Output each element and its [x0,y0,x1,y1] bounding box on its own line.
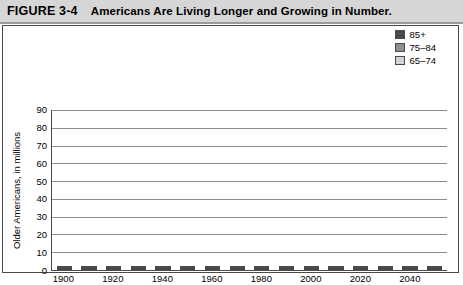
bar-slot [175,110,200,270]
x-tick-slot: 1960 [200,274,225,285]
bar-segment [402,269,417,271]
bar-slot [77,110,102,270]
bar-slot [225,110,250,270]
stacked-bar[interactable] [328,266,343,270]
stacked-bar[interactable] [378,266,393,270]
legend-swatch-icon [395,56,405,65]
stacked-bar[interactable] [81,266,96,270]
y-tick-label: 20 [36,230,47,240]
x-tick-slot [224,274,249,285]
legend-label: 85+ [410,30,426,40]
stacked-bar[interactable] [254,266,269,270]
figure-title: Americans Are Living Longer and Growing … [91,5,392,17]
x-tick-label: 1960 [201,274,222,284]
x-tick-label: 1920 [102,274,123,284]
y-tick-label: 90 [36,105,47,115]
x-tick-slot: 2020 [348,274,373,285]
x-tick-slot [125,274,150,285]
y-tick-label: 60 [36,159,47,169]
x-tick-slot: 1900 [51,274,76,285]
bar-slot [348,110,373,270]
x-tick-label: 2000 [300,274,321,284]
bar-segment [131,269,146,271]
bar-slot [422,110,447,270]
x-tick-label: 1900 [53,274,74,284]
x-tick-slot [422,274,447,285]
x-tick-slot: 2040 [398,274,423,285]
stacked-bar[interactable] [353,266,368,270]
stacked-bar[interactable] [304,266,319,270]
legend-swatch-icon [395,30,405,39]
stacked-bar[interactable] [427,266,442,270]
x-tick-slot: 2000 [299,274,324,285]
bar-segment [230,269,245,271]
bar-segment [304,269,319,271]
stacked-bar[interactable] [180,266,195,270]
figure-container: FIGURE 3-4 Americans Are Living Longer a… [0,0,463,285]
x-tick-label: 2040 [399,274,420,284]
x-tick-slot: 1980 [249,274,274,285]
bar-slot [373,110,398,270]
bar-segment [378,269,393,271]
bar-segment [81,269,96,271]
bar-segment [180,269,195,271]
y-tick-label: 30 [36,213,47,223]
bar-slot [101,110,126,270]
x-tick-slot [323,274,348,285]
bar-slot [299,110,324,270]
y-tick-label: 50 [36,177,47,187]
legend-item-65-74: 65–74 [395,56,436,66]
x-tick-slot: 1940 [150,274,175,285]
figure-header: FIGURE 3-4 Americans Are Living Longer a… [0,0,463,22]
bar-group [52,110,447,270]
y-axis-title-text: Older Americans, in millions [12,132,23,249]
y-tick-label: 40 [36,195,47,205]
y-tick-label: 0 [42,266,47,276]
bar-segment [427,269,442,271]
x-axis-ticks: 19001920194019601980200020202040 [51,274,447,285]
x-tick-label: 1980 [251,274,272,284]
bar-slot [151,110,176,270]
x-tick-slot [175,274,200,285]
legend-label: 65–74 [410,56,436,66]
bar-segment [57,269,72,271]
y-tick-label: 10 [36,248,47,258]
bar-slot [250,110,275,270]
chart-legend: 85+75–8465–74 [395,30,436,66]
x-tick-slot [274,274,299,285]
y-tick-label: 80 [36,123,47,133]
bar-segment [279,269,294,271]
x-tick-label: 1940 [152,274,173,284]
header-divider [0,22,463,24]
y-axis-ticks: 0102030405060708090 [23,110,47,271]
stacked-bar[interactable] [131,266,146,270]
legend-label: 75–84 [410,43,436,53]
bar-slot [200,110,225,270]
chart-frame: 85+75–8465–74 Older Americans, in millio… [2,25,459,273]
bar-segment [353,269,368,271]
bar-segment [106,269,121,271]
stacked-bar[interactable] [57,266,72,270]
legend-item-85+: 85+ [395,30,436,40]
figure-number: FIGURE 3-4 [7,4,78,18]
bar-segment [328,269,343,271]
legend-item-75-84: 75–84 [395,43,436,53]
x-tick-slot [373,274,398,285]
x-tick-slot [76,274,101,285]
bar-slot [398,110,423,270]
bar-slot [324,110,349,270]
bar-segment [205,269,220,271]
plot-area [51,110,447,271]
bar-slot [126,110,151,270]
bar-segment [155,269,170,271]
stacked-bar[interactable] [155,266,170,270]
stacked-bar[interactable] [106,266,121,270]
stacked-bar[interactable] [279,266,294,270]
x-tick-slot: 1920 [101,274,126,285]
bar-slot [274,110,299,270]
stacked-bar[interactable] [205,266,220,270]
stacked-bar[interactable] [230,266,245,270]
stacked-bar[interactable] [402,266,417,270]
y-axis-title: Older Americans, in millions [10,110,24,271]
legend-swatch-icon [395,43,405,52]
